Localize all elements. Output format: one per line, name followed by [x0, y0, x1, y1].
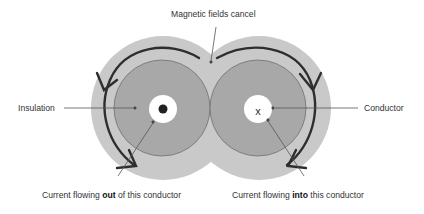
conductor-label: Conductor: [364, 104, 404, 113]
left-caption-bold: out: [102, 190, 115, 200]
left-caption-post: of this conductor: [116, 190, 181, 200]
right-caption-post: this conductor: [308, 190, 364, 200]
left-caption-pre: Current flowing: [42, 190, 102, 200]
left-caption: Current flowing out of this conductor: [42, 191, 181, 200]
twin-conductor-diagram: x: [0, 0, 424, 214]
right-caption: Current flowing into this conductor: [232, 191, 364, 200]
right-caption-pre: Current flowing: [232, 190, 292, 200]
into-page-cross-icon: x: [255, 105, 261, 117]
magnetic-fields-cancel-label: Magnetic fields cancel: [171, 10, 256, 19]
out-of-page-dot-icon: [159, 105, 168, 114]
right-caption-bold: into: [292, 190, 308, 200]
insulation-label: Insulation: [18, 104, 55, 113]
